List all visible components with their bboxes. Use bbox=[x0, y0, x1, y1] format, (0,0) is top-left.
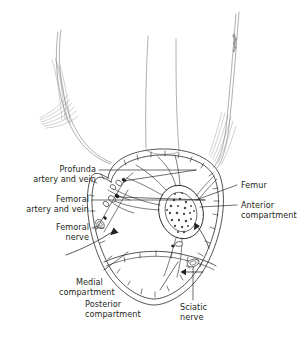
thigh-surface-outline bbox=[40, 12, 239, 168]
label-medial-line2: compartment bbox=[59, 287, 115, 297]
leader-femur bbox=[196, 185, 237, 200]
label-posterior-line1: Posterior bbox=[85, 299, 122, 309]
left-flank-shading bbox=[40, 58, 78, 128]
label-anterior-line1: Anterior bbox=[241, 200, 275, 210]
anatomical-figure: Profunda artery and vein Femoral artery … bbox=[0, 0, 305, 338]
posterior-vessels bbox=[171, 241, 182, 247]
neurovascular-bundle bbox=[94, 173, 134, 232]
fascia-lata bbox=[87, 149, 223, 305]
label-medial-line1: Medial bbox=[76, 277, 103, 287]
label-femoral-nerve-line2: nerve bbox=[66, 232, 89, 242]
label-anterior-line2: compartment bbox=[241, 210, 297, 220]
label-sciatic-line2: nerve bbox=[180, 312, 203, 322]
label-profunda-line1: Profunda bbox=[60, 164, 96, 174]
label-femur: Femur bbox=[241, 180, 267, 190]
leader-medial bbox=[104, 252, 128, 270]
label-femoral-vessels-line1: Femoral bbox=[56, 194, 89, 204]
label-profunda-line2: artery and vein bbox=[33, 174, 96, 184]
femoral-artery-and-vein bbox=[102, 193, 120, 207]
sciatic-nerve bbox=[186, 258, 200, 269]
label-sciatic-line1: Sciatic bbox=[180, 302, 207, 312]
leader-posterior bbox=[160, 262, 178, 290]
thigh-cross-section-illustration: Profunda artery and vein Femoral artery … bbox=[0, 0, 305, 338]
label-posterior-line2: compartment bbox=[85, 309, 141, 319]
label-femoral-vessels-line2: artery and vein bbox=[26, 204, 89, 214]
label-femoral-nerve-line1: Femoral bbox=[56, 222, 89, 232]
